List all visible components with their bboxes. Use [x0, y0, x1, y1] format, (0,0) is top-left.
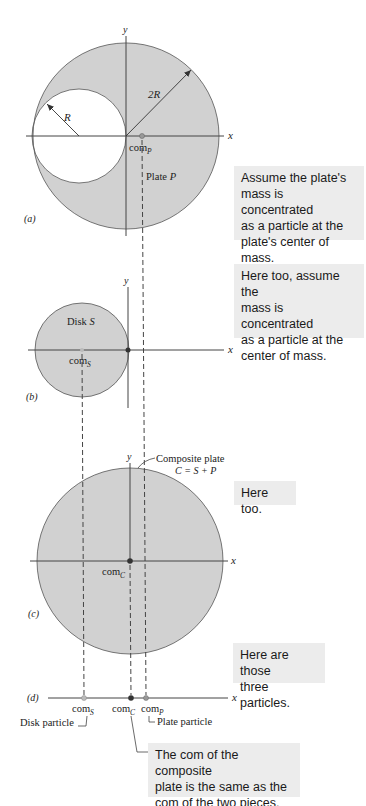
panel-c-label: (c)	[28, 608, 40, 620]
plate-p-label: Plate P	[146, 171, 177, 182]
radius-2r-label: 2R	[148, 88, 161, 100]
disk-particle-leader	[78, 716, 87, 726]
com-c-dot-d	[128, 695, 134, 701]
callout-panel-a: Assume the plate's mass is concentrated …	[234, 166, 364, 240]
y-axis-label-b: y	[123, 275, 129, 286]
radius-r-arrow	[47, 104, 79, 136]
com-s-dot-b	[80, 348, 84, 352]
composite-equation: C = S + P	[175, 465, 216, 476]
com-p-dot-a	[140, 134, 145, 139]
com-p-label-d: comP	[141, 703, 164, 717]
callout-panel-d-particles: Here are those three particles.	[233, 643, 325, 683]
panel-d-label: (d)	[27, 692, 39, 704]
panel-c	[30, 458, 228, 654]
panel-a	[26, 36, 224, 236]
com-s-label-d: comS	[72, 703, 94, 717]
panel-a-label: (a)	[24, 213, 36, 225]
callout-panel-c: Here too.	[234, 481, 296, 505]
origin-dot-b	[126, 348, 131, 353]
plate-particle-leader	[149, 716, 155, 722]
callout-panel-b: Here too, assume the mass is concentrate…	[234, 264, 364, 338]
radius-r-label: R	[63, 111, 71, 123]
disk-particle-label: Disk particle	[20, 717, 74, 728]
com-p-dot-d	[144, 696, 149, 701]
x-axis-label-d: x	[231, 691, 237, 703]
x-axis-label-b: x	[227, 343, 233, 355]
panel-b-label: (b)	[26, 391, 38, 403]
com-c-dot-c	[127, 558, 133, 564]
y-axis-label-c: y	[126, 451, 132, 462]
com-diagram: y x 2R R comP Plate P (a) y x Disk S com…	[0, 0, 366, 806]
panel-b	[28, 287, 224, 408]
composite-leader	[138, 458, 155, 468]
com-s-dot-d	[82, 696, 87, 701]
callout-composite-com: The com of the composite plate is the sa…	[148, 743, 300, 797]
y-axis-label-a: y	[122, 24, 128, 35]
plate-particle-label: Plate particle	[157, 716, 212, 727]
composite-plate-label: Composite plate	[156, 453, 225, 464]
disk-s-label: Disk S	[67, 316, 95, 327]
x-axis-label-a: x	[227, 129, 233, 141]
com-c-label-d: comC	[112, 703, 136, 717]
x-axis-label-c: x	[230, 554, 236, 566]
